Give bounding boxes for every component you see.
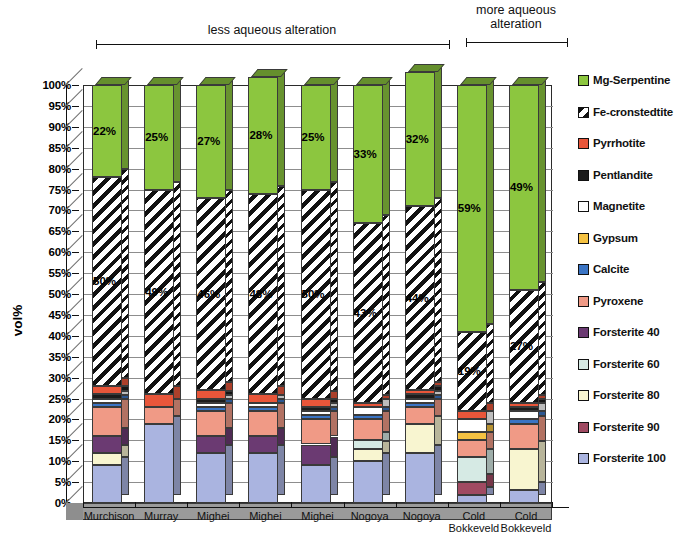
bar-segment[interactable] (248, 394, 278, 402)
bar-segment[interactable] (301, 411, 331, 415)
legend-item[interactable]: Pentlandite (578, 169, 690, 201)
bar-segment[interactable] (196, 403, 226, 407)
bar-segment[interactable] (457, 440, 487, 457)
stacked-bar[interactable]: 49%27% (509, 68, 539, 503)
bar-segment[interactable] (301, 465, 331, 503)
legend-item[interactable]: Gypsum (578, 232, 690, 264)
bar-segment[interactable] (405, 424, 435, 453)
bar-segment[interactable] (196, 390, 226, 398)
bar-segment[interactable] (248, 411, 278, 436)
bar-segment[interactable] (144, 394, 174, 407)
legend-item[interactable]: Fe-cronstedtite (578, 106, 690, 138)
bar-segment[interactable] (301, 419, 331, 444)
bar-segment[interactable] (144, 424, 174, 503)
bar-segment[interactable] (248, 436, 278, 453)
legend-item[interactable]: Calcite (578, 263, 690, 295)
bar-segment[interactable] (353, 449, 383, 462)
bar-group[interactable]: 27%46% (196, 68, 230, 503)
bar-segment[interactable] (196, 399, 226, 403)
bar-segment[interactable] (301, 415, 331, 419)
depth-rib (65, 465, 83, 483)
bar-group[interactable]: 25%50% (301, 68, 335, 503)
bar-segment[interactable] (405, 407, 435, 424)
bar-segment-side (331, 391, 338, 399)
bar-segment[interactable] (301, 399, 331, 407)
legend-item[interactable]: Pyrrhotite (578, 137, 690, 169)
stacked-bar[interactable]: 28%48% (248, 68, 278, 503)
bar-segment[interactable] (457, 411, 487, 419)
bar-segment[interactable] (248, 407, 278, 411)
bar-segment[interactable] (457, 432, 487, 440)
bar-segment[interactable] (196, 411, 226, 436)
bar-segment[interactable] (509, 403, 539, 407)
bar-segment[interactable] (509, 449, 539, 491)
bar-segment-side (383, 411, 390, 432)
stacked-bar[interactable]: 33%43% (353, 68, 383, 503)
legend-item[interactable]: Forsterite 60 (578, 358, 690, 390)
bar-segment[interactable] (144, 407, 174, 424)
bar-segment[interactable] (196, 407, 226, 411)
bar-segment[interactable] (353, 419, 383, 440)
bar-segment[interactable] (92, 453, 122, 466)
bar-segment[interactable] (353, 403, 383, 407)
bar-segment[interactable] (92, 386, 122, 394)
bar-segment[interactable] (457, 457, 487, 482)
bar-segment[interactable] (248, 453, 278, 503)
stacked-bar[interactable]: 25%49% (144, 68, 174, 503)
legend-label: Pentlandite (593, 169, 653, 181)
bar-segment[interactable] (457, 482, 487, 495)
bar-group[interactable]: 32%44% (405, 68, 439, 503)
bar-segment[interactable] (353, 415, 383, 419)
bar-segment-side (383, 395, 390, 399)
bar-segment[interactable] (509, 419, 539, 423)
bar-segment[interactable] (353, 440, 383, 448)
bar-segment[interactable] (457, 495, 487, 503)
bar-segment[interactable] (92, 399, 122, 403)
bar-value-label: 27% (197, 135, 220, 147)
bar-group[interactable]: 22%50% (92, 68, 126, 503)
stacked-bar[interactable]: 32%44% (405, 68, 435, 503)
stacked-bar[interactable]: 22%50% (92, 68, 122, 503)
bar-segment[interactable] (509, 407, 539, 411)
bar-segment[interactable] (92, 407, 122, 436)
bar-segment[interactable] (248, 403, 278, 407)
legend-item[interactable]: Forsterite 40 (578, 326, 690, 358)
bar-group[interactable]: 25%49% (144, 68, 178, 503)
bar-segment[interactable] (196, 453, 226, 503)
bar-segment[interactable] (92, 436, 122, 453)
bar-segment-side (383, 215, 390, 395)
legend-item[interactable]: Forsterite 90 (578, 421, 690, 453)
bar-segment[interactable] (92, 394, 122, 398)
bar-group[interactable]: 33%43% (353, 68, 387, 503)
legend-item[interactable]: Magnetite (578, 200, 690, 232)
bar-segment-side (435, 382, 442, 386)
bar-segment[interactable] (196, 436, 226, 453)
stacked-bar[interactable]: 59%19% (457, 68, 487, 503)
legend-item[interactable]: Pyroxene (578, 295, 690, 327)
bar-segment[interactable] (457, 419, 487, 432)
bar-segment[interactable] (509, 490, 539, 503)
bar-segment[interactable] (405, 453, 435, 503)
bar-segment[interactable] (405, 390, 435, 394)
bar-segment[interactable] (509, 424, 539, 449)
stacked-bar[interactable]: 27%46% (196, 68, 226, 503)
bar-segment[interactable] (405, 403, 435, 407)
bar-segment-side (383, 77, 390, 215)
bar-segment[interactable] (301, 407, 331, 411)
legend-item[interactable]: Mg-Serpentine (578, 74, 690, 106)
bar-segment[interactable] (353, 407, 383, 415)
bar-segment[interactable] (509, 411, 539, 419)
bar-segment[interactable] (405, 399, 435, 403)
bar-group[interactable]: 28%48% (248, 68, 282, 503)
bar-segment[interactable] (92, 403, 122, 407)
legend-item[interactable]: Forsterite 100 (578, 452, 690, 484)
legend-item[interactable]: Forsterite 80 (578, 389, 690, 421)
bar-segment[interactable] (405, 394, 435, 398)
bar-segment[interactable] (353, 461, 383, 503)
bar-group[interactable]: 59%19% (457, 68, 491, 503)
stacked-bar[interactable]: 25%50% (301, 68, 331, 503)
bar-group[interactable]: 49%27% (509, 68, 543, 503)
bar-segment[interactable] (301, 445, 331, 466)
bar-segment[interactable] (92, 465, 122, 503)
bar-segment-side (539, 399, 546, 403)
